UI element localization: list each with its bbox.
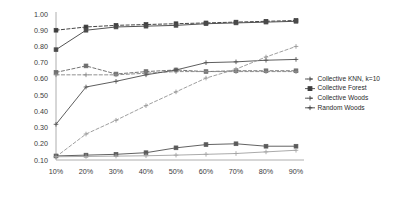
x-axis-labels: 10%20%30%40%50%60%70%80%90% bbox=[49, 167, 304, 176]
data-point-marker bbox=[174, 23, 178, 27]
data-point-marker bbox=[84, 28, 88, 32]
legend-label: Random Woods bbox=[318, 104, 366, 111]
series-line bbox=[56, 46, 296, 156]
data-point-marker bbox=[294, 19, 298, 23]
data-point-marker bbox=[294, 144, 298, 148]
y-tick-label: 0.20 bbox=[34, 139, 48, 148]
y-tick-label: 0.30 bbox=[34, 123, 48, 132]
legend-item: Random Woods bbox=[305, 104, 365, 111]
data-point-marker bbox=[204, 143, 208, 147]
y-tick-label: 0.50 bbox=[34, 91, 48, 100]
x-tick-label: 20% bbox=[79, 167, 94, 176]
data-point-marker bbox=[84, 64, 88, 68]
y-axis-labels: 1.000.900.800.700.600.500.400.300.200.10 bbox=[34, 10, 48, 165]
x-tick-label: 70% bbox=[229, 167, 244, 176]
x-tick-label: 80% bbox=[259, 167, 274, 176]
x-tick-label: 10% bbox=[49, 167, 64, 176]
y-tick-label: 0.10 bbox=[34, 156, 48, 165]
y-tick-label: 0.60 bbox=[34, 74, 48, 83]
series-collective-forest bbox=[54, 19, 298, 51]
y-tick-label: 0.70 bbox=[34, 58, 48, 67]
data-point-marker bbox=[144, 24, 148, 28]
data-point-marker bbox=[264, 144, 268, 148]
data-point-marker bbox=[54, 48, 58, 52]
x-tick-label: 90% bbox=[289, 167, 304, 176]
series-group bbox=[54, 19, 299, 159]
legend-item: Collective Forest bbox=[305, 84, 367, 91]
chart-canvas: 1.000.900.800.700.600.500.400.300.200.10… bbox=[0, 0, 405, 198]
y-tick-label: 1.00 bbox=[34, 10, 48, 19]
legend-label: Collective KNN, k=10 bbox=[318, 75, 381, 82]
x-tick-label: 60% bbox=[199, 167, 214, 176]
legend: Collective KNN, k=10Collective ForestCol… bbox=[305, 75, 380, 111]
y-tick-label: 0.90 bbox=[34, 26, 48, 35]
legend-item: Collective Woods bbox=[305, 94, 369, 101]
legend-label: Collective Forest bbox=[318, 84, 367, 91]
data-point-marker bbox=[114, 25, 118, 29]
y-tick-label: 0.40 bbox=[34, 107, 48, 116]
data-point-marker bbox=[234, 21, 238, 25]
series-collective-woods-rising bbox=[54, 44, 299, 159]
x-tick-label: 30% bbox=[109, 167, 124, 176]
x-tick-label: 50% bbox=[169, 167, 184, 176]
legend-marker bbox=[308, 87, 312, 91]
x-tick-label: 40% bbox=[139, 167, 154, 176]
data-point-marker bbox=[264, 20, 268, 24]
legend-item: Collective KNN, k=10 bbox=[305, 75, 380, 82]
data-point-marker bbox=[204, 22, 208, 26]
legend-label: Collective Woods bbox=[318, 94, 370, 101]
data-point-marker bbox=[54, 28, 58, 32]
y-tick-label: 0.80 bbox=[34, 42, 48, 51]
data-point-marker bbox=[174, 146, 178, 150]
data-point-marker bbox=[234, 142, 238, 146]
line-chart: 1.000.900.800.700.600.500.400.300.200.10… bbox=[0, 0, 405, 198]
